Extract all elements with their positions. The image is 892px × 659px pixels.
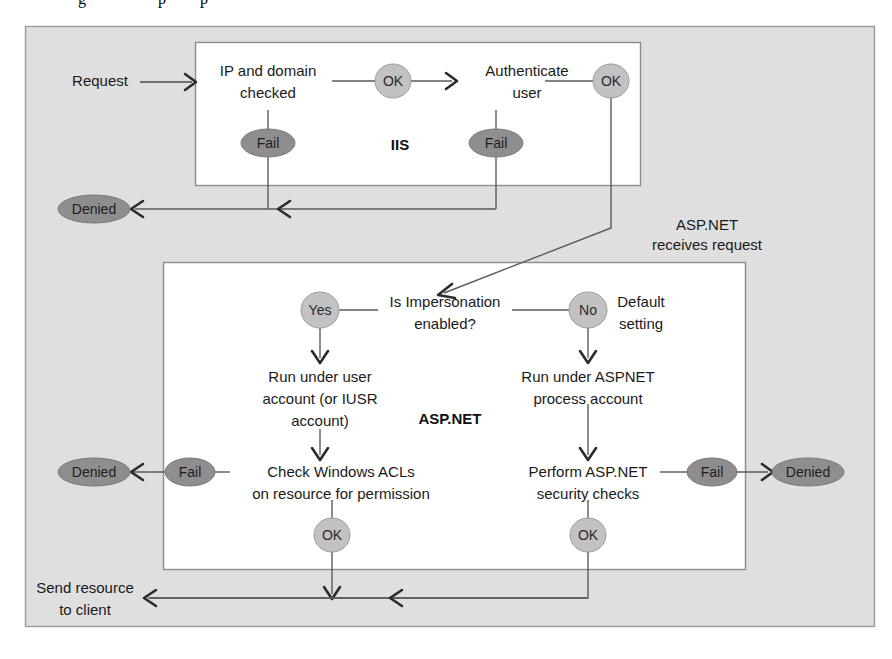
badge-fail-2-label: Fail (485, 135, 508, 151)
badge-fail-1-label: Fail (257, 135, 280, 151)
label-run-user-line2: account (or IUSR (262, 390, 377, 407)
terminal-denied-left: Denied (58, 458, 130, 486)
terminal-denied-right-label: Denied (786, 464, 830, 480)
flow-diagram: Request IP and domain checked Authentica… (0, 0, 892, 659)
terminal-denied-right: Denied (772, 458, 844, 486)
label-run-aspnet-line2: process account (533, 390, 643, 407)
label-check-acls-line2: on resource for permission (252, 485, 430, 502)
label-ip-domain-line1: IP and domain (220, 62, 316, 79)
label-aspnet-group: ASP.NET (418, 410, 481, 427)
badge-yes-label: Yes (309, 302, 332, 318)
terminal-denied-left-label: Denied (72, 464, 116, 480)
terminal-denied-top: Denied (58, 195, 130, 223)
badge-ok-3: OK (314, 518, 350, 552)
label-aspnet-receives-line1: ASP.NET (676, 216, 738, 233)
badge-no-label: No (579, 302, 597, 318)
label-impersonation-line2: enabled? (414, 315, 476, 332)
badge-ok-4-label: OK (578, 527, 599, 543)
label-check-acls-line1: Check Windows ACLs (267, 463, 415, 480)
label-ip-domain-line2: checked (240, 84, 296, 101)
badge-fail-2: Fail (469, 129, 523, 157)
badge-no: No (569, 292, 607, 328)
label-iis-group: IIS (391, 136, 409, 153)
diagram-page: g pp (0, 0, 892, 659)
label-default-setting-line2: setting (619, 315, 663, 332)
badge-ok-2: OK (593, 64, 629, 98)
label-default-setting-line1: Default (617, 293, 665, 310)
label-run-aspnet-line1: Run under ASPNET (521, 368, 654, 385)
badge-ok-3-label: OK (322, 527, 343, 543)
badge-fail-4-label: Fail (701, 464, 724, 480)
label-perform-checks-line2: security checks (537, 485, 640, 502)
badge-ok-2-label: OK (601, 73, 622, 89)
label-run-user-line3: account) (291, 412, 349, 429)
label-send-resource-line2: to client (59, 601, 112, 618)
label-send-resource-line1: Send resource (36, 579, 134, 596)
label-perform-checks-line1: Perform ASP.NET (529, 463, 648, 480)
label-aspnet-receives-line2: receives request (652, 236, 763, 253)
label-run-user-line1: Run under user (268, 368, 371, 385)
badge-ok-1-label: OK (383, 73, 404, 89)
badge-fail-3-label: Fail (179, 464, 202, 480)
terminal-denied-top-label: Denied (72, 201, 116, 217)
badge-ok-4: OK (570, 518, 606, 552)
badge-fail-1: Fail (241, 129, 295, 157)
badge-fail-4: Fail (687, 458, 737, 486)
cropped-page-footer (0, 634, 892, 659)
badge-fail-3: Fail (165, 458, 215, 486)
label-authenticate-line2: user (512, 84, 541, 101)
label-authenticate-line1: Authenticate (485, 62, 568, 79)
badge-yes: Yes (301, 292, 339, 328)
label-impersonation-line1: Is Impersonation (390, 293, 501, 310)
label-request: Request (72, 72, 129, 89)
badge-ok-1: OK (375, 64, 411, 98)
